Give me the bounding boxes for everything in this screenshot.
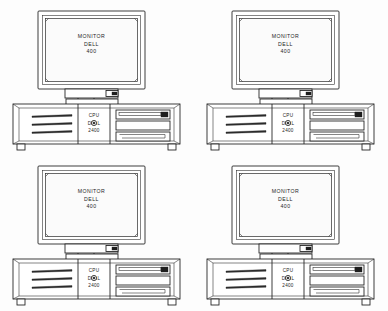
cpu-assembly: CPU DELL 2400 bbox=[13, 104, 180, 150]
cpu-foot-right bbox=[168, 144, 176, 150]
cpu-assembly: CPU DELL 2400 bbox=[207, 259, 374, 305]
computer-unit-bottom-left: MONITOR DELL 400 CPU bbox=[0, 155, 194, 311]
cpu-label-line1: CPU bbox=[283, 113, 294, 118]
cpu-label-line3: 2400 bbox=[282, 283, 294, 288]
cpu-power-button-dot bbox=[93, 277, 95, 279]
monitor-label-line1: MONITOR bbox=[78, 188, 106, 194]
cpu-drive-bay-2 bbox=[116, 276, 170, 285]
cpu-label-line3: 2400 bbox=[88, 283, 100, 288]
monitor-label-line2: DELL bbox=[278, 196, 293, 202]
cpu-drive-bay-2 bbox=[116, 121, 170, 130]
cpu-label-line3: 2400 bbox=[88, 128, 100, 133]
monitor-power-button bbox=[306, 247, 311, 250]
monitor-assembly: MONITOR DELL 400 bbox=[38, 11, 145, 105]
cpu-drive-eject-1 bbox=[161, 267, 168, 272]
cpu-label-line3: 2400 bbox=[282, 128, 294, 133]
monitor-label-line3: 400 bbox=[86, 48, 96, 54]
monitor-assembly: MONITOR DELL 400 bbox=[232, 166, 339, 260]
cpu-foot-right bbox=[362, 144, 370, 150]
cpu-drive-eject-1 bbox=[355, 267, 362, 272]
monitor-label-line3: 400 bbox=[86, 203, 96, 209]
drawing-sheet: MONITOR DELL 400 bbox=[0, 0, 388, 311]
monitor-label-line2: DELL bbox=[84, 41, 99, 47]
cpu-power-button-dot bbox=[287, 122, 289, 124]
cpu-drive-bay-2 bbox=[310, 121, 364, 130]
scan-artifact bbox=[182, 300, 222, 305]
cpu-label-line1: CPU bbox=[89, 268, 100, 273]
cpu-foot-left bbox=[211, 144, 219, 150]
cpu-drive-bay-3 bbox=[116, 287, 170, 296]
monitor-label-line3: 400 bbox=[280, 203, 290, 209]
cpu-foot-left bbox=[17, 144, 25, 150]
monitor-label-line3: 400 bbox=[280, 48, 290, 54]
cpu-label-line1: CPU bbox=[89, 113, 100, 118]
cpu-foot-right bbox=[362, 299, 370, 305]
monitor-power-button bbox=[306, 92, 311, 95]
monitor-assembly: MONITOR DELL 400 bbox=[38, 166, 145, 260]
monitor-label-line1: MONITOR bbox=[272, 33, 300, 39]
cpu-drive-bay-3 bbox=[310, 132, 364, 141]
cpu-assembly: CPU DELL 2400 bbox=[13, 259, 180, 305]
monitor-label-line1: MONITOR bbox=[78, 33, 106, 39]
computer-unit-bottom-right: MONITOR DELL 400 CPU bbox=[194, 155, 388, 311]
cpu-foot-right bbox=[168, 299, 176, 305]
monitor-assembly: MONITOR DELL 400 bbox=[232, 11, 339, 105]
cpu-drive-eject-1 bbox=[161, 112, 168, 117]
cpu-assembly: CPU DELL 2400 bbox=[207, 104, 374, 150]
cpu-foot-left bbox=[17, 299, 25, 305]
monitor-power-button bbox=[112, 92, 117, 95]
cpu-drive-bay-2 bbox=[310, 276, 364, 285]
monitor-label-line2: DELL bbox=[84, 196, 99, 202]
computer-unit-top-right: MONITOR DELL 400 CPU bbox=[194, 0, 388, 156]
cpu-power-button-dot bbox=[287, 277, 289, 279]
computer-unit-top-left: MONITOR DELL 400 bbox=[0, 0, 194, 156]
cpu-power-button-dot bbox=[93, 122, 95, 124]
cpu-drive-bay-3 bbox=[116, 132, 170, 141]
monitor-label-line1: MONITOR bbox=[272, 188, 300, 194]
cpu-drive-bay-3 bbox=[310, 287, 364, 296]
monitor-label-line2: DELL bbox=[278, 41, 293, 47]
cpu-label-line1: CPU bbox=[283, 268, 294, 273]
cpu-drive-eject-1 bbox=[355, 112, 362, 117]
monitor-power-button bbox=[112, 247, 117, 250]
